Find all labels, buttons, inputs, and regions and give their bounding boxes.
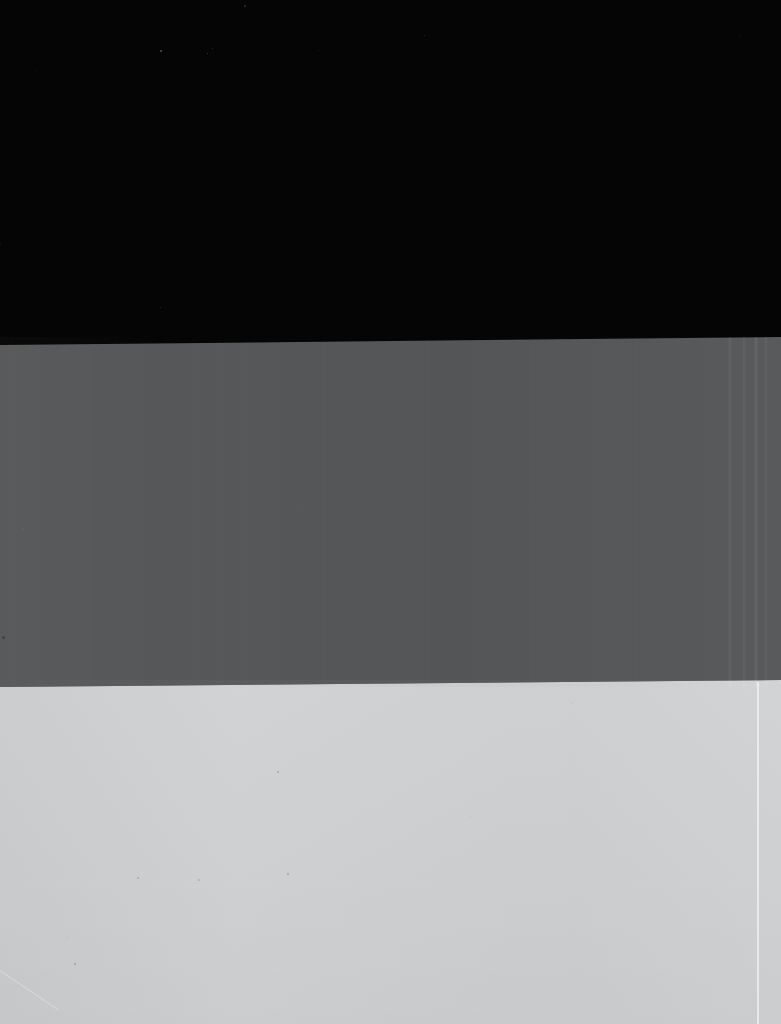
black-band (0, 0, 781, 360)
image-canvas (0, 0, 781, 1024)
